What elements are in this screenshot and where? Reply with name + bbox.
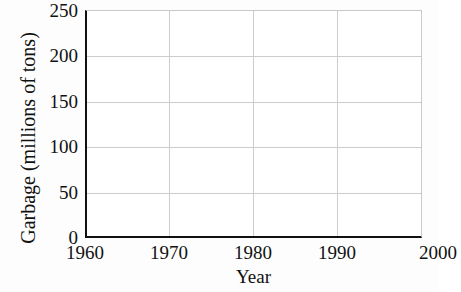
gridline-vertical xyxy=(253,11,254,236)
y-axis-tick-label: 250 xyxy=(18,1,78,21)
y-axis-tick-label: 100 xyxy=(18,137,78,157)
y-axis-tick-label: 50 xyxy=(18,183,78,203)
x-axis-tick-label: 1980 xyxy=(213,242,293,264)
x-axis-tick-label: 1990 xyxy=(297,242,377,264)
gridline-vertical xyxy=(169,11,170,236)
x-axis-tick-label: 1970 xyxy=(129,242,209,264)
gridline-horizontal xyxy=(87,147,421,148)
x-axis-title: Year xyxy=(85,266,422,288)
x-axis-tick-label: 2000 xyxy=(419,242,461,264)
gridline-horizontal xyxy=(87,102,421,103)
plot-area xyxy=(85,10,422,238)
gridline-horizontal xyxy=(87,193,421,194)
gridline-horizontal xyxy=(87,56,421,57)
gridline-vertical xyxy=(337,11,338,236)
x-axis-tick-label: 1960 xyxy=(45,242,125,264)
y-axis-tick-label: 200 xyxy=(18,46,78,66)
y-axis-tick-label: 150 xyxy=(18,92,78,112)
